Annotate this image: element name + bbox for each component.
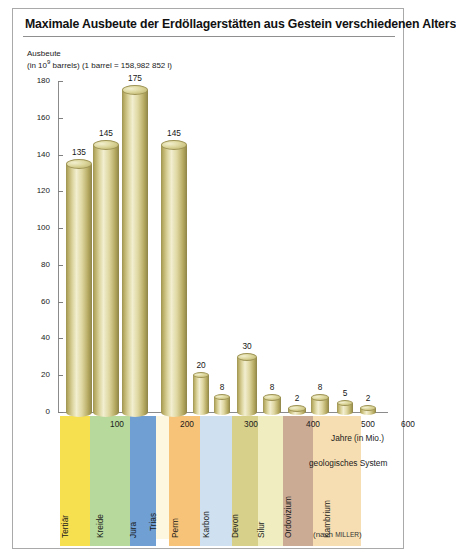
bar-devon-8 xyxy=(263,394,281,416)
bar-ordovizium-5 xyxy=(337,400,353,415)
y-axis-tick-label: 80 xyxy=(28,260,50,269)
bar-top-ellipse xyxy=(288,405,306,412)
y-axis-line xyxy=(58,81,59,413)
y-axis-tick-mark xyxy=(58,375,63,376)
y-axis-tick-mark xyxy=(58,118,63,119)
period-label: Perm xyxy=(170,518,180,538)
y-axis-tick-label: 180 xyxy=(28,76,50,85)
bar-top-ellipse xyxy=(66,159,92,169)
bar-top-ellipse xyxy=(337,400,353,406)
x-axis-title: Jahre (in Mio.) xyxy=(331,433,384,443)
period-label: Karbon xyxy=(201,511,211,538)
y-axis-tick-mark xyxy=(58,302,63,303)
credit-prefix: (nach xyxy=(313,530,335,539)
x-axis-tick-label: 300 xyxy=(236,419,266,429)
period-label: Trias xyxy=(148,513,158,531)
bar-value-label: 8 xyxy=(208,382,236,392)
period-label: Kreide xyxy=(95,514,105,538)
y-axis-tick-label: 20 xyxy=(28,370,50,379)
y-axis-tick-label: 140 xyxy=(28,150,50,159)
bar-value-label: 20 xyxy=(187,360,215,370)
period-label: Jura xyxy=(128,522,138,538)
y-axis-tick-label: 0 xyxy=(28,407,50,416)
bar-kreide-145 xyxy=(93,140,119,417)
bar-top-ellipse xyxy=(237,353,257,361)
plot-area: 020406080100120140160180TertiärKreideJur… xyxy=(13,9,405,550)
bar-devon-2 xyxy=(288,405,306,416)
bar-value-label: 175 xyxy=(116,73,154,83)
y-axis-tick-mark xyxy=(58,265,63,266)
geologic-system-label: geologisches System xyxy=(309,458,387,468)
y-axis-tick-mark xyxy=(58,412,63,413)
x-axis-tick-label: 500 xyxy=(353,419,383,429)
y-axis-tick-label: 60 xyxy=(28,297,50,306)
bar-trias-20 xyxy=(193,372,209,415)
bar-body xyxy=(161,145,187,417)
bar-value-label: 145 xyxy=(155,128,193,138)
x-axis-tick-label: 100 xyxy=(102,419,132,429)
credit-author: MILLER xyxy=(335,531,359,538)
chart-frame: Maximale Ausbeute der Erdöllagerstätten … xyxy=(12,8,404,549)
y-axis-tick-mark xyxy=(58,338,63,339)
y-axis-tick-label: 40 xyxy=(28,333,50,342)
source-credit: (nach MILLER) xyxy=(313,530,362,539)
period-label: Ordovizium xyxy=(283,496,293,538)
credit-suffix: ) xyxy=(359,530,362,539)
bar-kambrium-2 xyxy=(360,405,376,415)
bar-body xyxy=(93,145,119,417)
y-axis-tick-mark xyxy=(58,191,63,192)
y-axis-tick-label: 120 xyxy=(28,186,50,195)
y-axis-tick-mark xyxy=(58,81,63,82)
y-axis-tick-label: 100 xyxy=(28,223,50,232)
period-label: Silur xyxy=(256,521,266,538)
y-axis-tick-mark xyxy=(58,228,63,229)
bar-silur-8 xyxy=(311,394,329,416)
bar-body xyxy=(193,375,209,415)
bar-value-label: 145 xyxy=(87,128,125,138)
bar-tertir-135 xyxy=(66,159,92,417)
x-axis-tick-label: 200 xyxy=(172,419,202,429)
y-axis-tick-label: 160 xyxy=(28,113,50,122)
bar-top-ellipse xyxy=(263,394,281,401)
x-axis-tick-label: 600 xyxy=(393,419,423,429)
bar-body xyxy=(66,164,92,417)
bar-value-label: 2 xyxy=(354,393,382,403)
bar-jura-145 xyxy=(161,140,187,417)
x-axis-tick-label: 400 xyxy=(298,419,328,429)
bar-kreide-175 xyxy=(122,85,148,417)
bar-perm-8 xyxy=(214,394,230,415)
bar-value-label: 30 xyxy=(231,341,263,351)
bar-body xyxy=(122,90,148,417)
bar-body xyxy=(237,357,257,416)
period-label: Tertiär xyxy=(60,515,70,538)
period-label: Devon xyxy=(230,514,240,538)
bar-karbon-30 xyxy=(237,353,257,416)
bar-top-ellipse xyxy=(311,394,329,401)
bar-value-label: 8 xyxy=(257,382,287,392)
bar-value-label: 2 xyxy=(282,393,312,403)
